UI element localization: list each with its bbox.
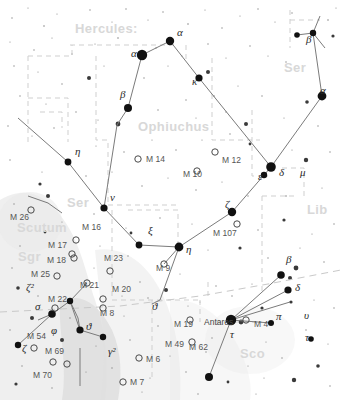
greek-designation-label-2: β [119, 88, 126, 100]
messier-text-m22: M 22 [48, 294, 67, 304]
ophiuchus-figure [104, 41, 271, 247]
star-marker-ophiuchus-vertex [266, 162, 276, 172]
greek-designation-label-5: α [320, 84, 326, 96]
star-marker-scorpius-pi [268, 320, 274, 326]
star-marker-ophiuchus-nu [100, 204, 107, 211]
messier-text-m49: M 49 [165, 339, 184, 349]
star-marker-serpens-beta-a [294, 32, 300, 38]
messier-text-m19: M 19 [174, 319, 193, 329]
star-marker-scorpius-tau2 [308, 336, 314, 342]
star-marker-hercules-beta [124, 104, 132, 112]
messier-text-m54: M 54 [27, 331, 46, 341]
star-chart-canvas: Hercules:OphiuchusSerSerLibScutumSgrSco … [0, 0, 341, 400]
constellation-label-hercules-0: Hercules: [75, 21, 138, 36]
ophiuchus-figure-upper [170, 41, 271, 167]
greek-designation-label-14: ϑ [152, 300, 158, 312]
messier-text-m20: M 20 [112, 284, 131, 294]
dso-marker-m107 [234, 221, 240, 227]
messier-text-m9: M 9 [156, 263, 170, 273]
greek-designation-label-12: δ [279, 166, 285, 178]
messier-text-m23: M 23 [104, 253, 123, 263]
greek-designation-label-13: μ [299, 166, 306, 178]
greek-designation-label-8: ξ [148, 224, 153, 237]
constellation-label-sco-7: Sco [240, 346, 265, 361]
star-marker-hercules-alpha [137, 50, 147, 60]
constellation-label-sgr-6: Sgr [18, 249, 41, 264]
star-name-antares: Antares [204, 317, 233, 327]
messier-text-m21: M 21 [80, 280, 99, 290]
messier-text-m18: M 18 [47, 255, 66, 265]
greek-designation-label-1: α [131, 47, 137, 59]
star-marker-sgr-theta [76, 326, 83, 333]
greek-designation-label-23: π [276, 310, 282, 322]
dso-marker-m14 [135, 156, 141, 162]
messier-text-m10: M 10 [183, 169, 202, 179]
greek-designation-label-22: δ [295, 281, 301, 293]
messier-text-m17: M 17 [48, 240, 67, 250]
star-marker-sgr-gamma [100, 334, 106, 340]
serpens-caput-figure [271, 33, 322, 167]
greek-designation-label-17: φ [51, 324, 57, 336]
greek-designation-label-3: κ [192, 75, 198, 87]
star-marker-scorpius-beta [277, 271, 285, 279]
messier-text-m26: M 26 [10, 212, 29, 222]
messier-text-m69: M 69 [45, 346, 64, 356]
greek-designation-label-4: β [305, 33, 312, 45]
greek-designation-label-7: ν [110, 191, 115, 203]
messier-text-m14: M 14 [146, 154, 165, 164]
greek-designation-label-6: η [75, 145, 80, 157]
greek-designation-label-0: α [177, 26, 183, 38]
greek-designation-label-21: β [285, 253, 292, 265]
star-marker-ophiuchus-xi [136, 242, 143, 249]
star-marker-ophiuchus-alpha-ras [166, 37, 174, 45]
dso-marker-m12 [212, 149, 218, 155]
messier-text-m12: M 12 [222, 155, 241, 165]
greek-designation-label-19: ζ² [26, 281, 34, 294]
constellation-label-ser-2: Ser [284, 60, 306, 75]
messier-text-m16: M 16 [82, 222, 101, 232]
messier-text-m25: M 25 [31, 269, 50, 279]
star-marker-ophiuchus-eta [175, 243, 184, 252]
greek-designation-label-20: γ² [108, 345, 116, 357]
greek-designation-label-15: ϑ [86, 320, 92, 332]
messier-text-m70: M 70 [33, 370, 52, 380]
messier-text-m62: M 62 [189, 342, 208, 352]
constellation-label-ser-3: Ser [67, 195, 89, 210]
greek-designation-label-24: υ [304, 309, 309, 321]
greek-designation-label-16: σ [35, 300, 41, 312]
star-marker-sgr-lambda [67, 298, 73, 304]
constellation-label-ophiuchus-1: Ophiuchus [138, 119, 210, 134]
messier-text-m107: M 107 [213, 228, 237, 238]
named-star-label-layer: Antares [204, 317, 233, 327]
star-marker-scorpius-lower [205, 373, 213, 381]
sky-map-svg: Hercules:OphiuchusSerSerLibScutumSgrSco … [0, 0, 341, 400]
star-marker-serpens-eta [65, 159, 72, 166]
messier-text-m7: M 7 [130, 377, 144, 387]
messier-text-m6: M 6 [146, 354, 160, 364]
greek-designation-label-9: η [186, 243, 191, 255]
messier-text-m8: M 8 [100, 308, 114, 318]
constellation-label-lib-4: Lib [307, 202, 328, 217]
constellation-label-scutum-5: Scutum [17, 220, 67, 235]
messier-text-m4: M 4 [254, 319, 268, 329]
star-marker-sgr-zeta-star [15, 342, 21, 348]
star-marker-scorpius-delta [284, 286, 291, 293]
greek-designation-label-11: ε [258, 170, 263, 182]
